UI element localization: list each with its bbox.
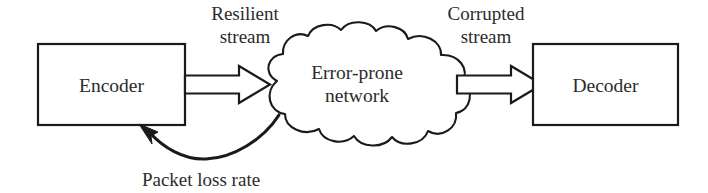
packet-loss-rate-label: Packet loss rate xyxy=(142,169,260,190)
diagram-canvas: Encoder Resilient stream Error-prone net… xyxy=(0,0,708,193)
node-network-cloud: Error-prone network xyxy=(268,22,470,145)
edge-packet-loss-rate: Packet loss rate xyxy=(139,115,279,190)
resilient-stream-label-line1: Resilient xyxy=(211,3,279,24)
corrupted-stream-label-line2: stream xyxy=(461,26,512,47)
cloud-shape xyxy=(268,22,470,145)
network-label-line2: network xyxy=(325,85,389,106)
corrupted-stream-label-line1: Corrupted xyxy=(447,3,525,24)
network-diagram: Encoder Resilient stream Error-prone net… xyxy=(0,0,708,193)
packet-loss-rate-arrowhead xyxy=(139,124,158,144)
node-encoder: Encoder xyxy=(38,44,185,125)
edge-resilient-stream: Resilient stream xyxy=(185,3,279,103)
network-label-line1: Error-prone xyxy=(311,62,403,83)
edge-corrupted-stream: Corrupted stream xyxy=(447,3,542,103)
resilient-stream-label-line2: stream xyxy=(220,26,271,47)
decoder-label: Decoder xyxy=(572,75,639,96)
encoder-label: Encoder xyxy=(79,75,144,96)
resilient-stream-arrow xyxy=(185,66,270,103)
node-decoder: Decoder xyxy=(533,44,678,125)
